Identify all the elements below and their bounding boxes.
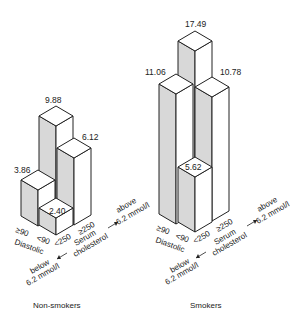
value-label: 9.88 xyxy=(45,95,62,105)
chart-title-nonsmokers: Non-smokers xyxy=(33,301,81,310)
value-label: 5.62 xyxy=(185,162,202,172)
value-label: 17.49 xyxy=(185,19,207,29)
value-label: 3.86 xyxy=(14,165,31,175)
chart-canvas: 9.88 6.12 3.86 2.40 ≥90 <90 Diastolic <2… xyxy=(0,0,304,317)
nonsmokers-chart: 9.88 6.12 3.86 2.40 ≥90 <90 Diastolic <2… xyxy=(13,95,151,310)
smokers-chart: 17.49 11.06 10.78 5.62 ≥90 <90 Diastolic… xyxy=(145,19,291,310)
value-label: 6.12 xyxy=(82,132,99,142)
value-label: 2.40 xyxy=(49,206,66,216)
value-label: 11.06 xyxy=(145,67,166,77)
chart-title-smokers: Smokers xyxy=(190,301,222,310)
value-label: 10.78 xyxy=(220,67,242,77)
